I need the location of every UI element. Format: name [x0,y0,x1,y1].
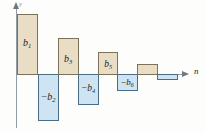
bar-1-positive [17,14,38,75]
bar-7-positive [137,64,158,75]
x-axis-label: n [194,66,199,76]
x-axis-arrowhead-icon [182,71,189,77]
y-axis-label: y [19,0,22,8]
bar-6-negative [117,74,138,91]
bar-3-positive [58,38,79,75]
alternating-series-bar-chart: y n b1 −b2 b3 −b4 b5 −b6 [0,0,206,133]
bar-2-negative [38,74,59,121]
bar-8-negative [157,74,178,80]
bar-4-negative [78,74,99,105]
bar-5-positive [98,52,118,75]
